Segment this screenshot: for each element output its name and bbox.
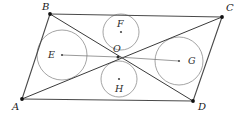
center-dot-H [118, 78, 120, 80]
vertex-dot-A [20, 97, 24, 101]
edge-AB [22, 14, 50, 99]
center-dot-F [120, 31, 122, 33]
vertex-dot-D [191, 99, 195, 103]
center-dot-E [61, 54, 63, 56]
edge-CD [193, 17, 222, 101]
circle-label-G: G [188, 56, 196, 66]
edge-DA [22, 99, 193, 101]
vertex-label-B: B [42, 2, 49, 12]
vertex-label-D: D [198, 102, 206, 112]
geometry-figure: A B C D E F G H O [0, 0, 241, 118]
vertex-label-A: A [12, 102, 19, 112]
spoke-E-O [62, 55, 118, 57]
circle-label-H: H [115, 84, 123, 94]
vertex-dot-B [48, 12, 52, 16]
edge-BC [50, 14, 222, 17]
center-spoke-group [62, 55, 179, 61]
vertex-dot-C [220, 15, 224, 19]
circle-label-E: E [48, 50, 55, 60]
center-dot-O [117, 56, 120, 59]
center-dot-G [178, 60, 180, 62]
circle-label-F: F [117, 19, 124, 29]
vertex-label-C: C [226, 3, 234, 13]
center-label-O: O [113, 44, 121, 54]
